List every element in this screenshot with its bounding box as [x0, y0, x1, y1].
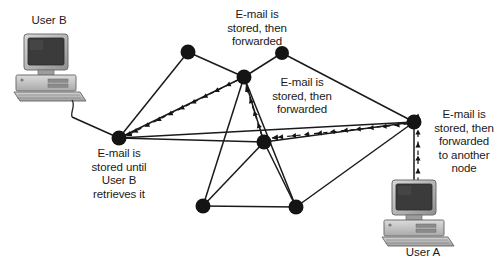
network-diagram: E-mail is stored, then forwarded E-mail … [0, 0, 501, 264]
label-right-note: E-mail is stored, then forwarded to anot… [429, 108, 499, 176]
flow-right-to-center-chevron [368, 125, 374, 131]
link-bottomleft-to-bottomright [203, 206, 296, 207]
network-node-top-left [181, 45, 196, 60]
flow-usera-to-right-chevron [415, 155, 420, 160]
link-left-to-topleft [119, 52, 188, 138]
computer-user-a [382, 180, 454, 246]
flow-usera-to-right-chevron [415, 142, 420, 147]
flow-usera-to-right-chevron [415, 168, 420, 173]
label-left-note: E-mail is stored until User B retrieves … [57, 147, 181, 201]
flow-uppermid-to-left-chevron [225, 82, 232, 89]
label-mid-note: E-mail is stored, then forwarded [248, 76, 356, 117]
network-node-center [257, 135, 272, 150]
network-node-bottom-right [289, 200, 304, 215]
link-userb-to-left [72, 117, 119, 138]
flow-right-to-center-chevron [355, 126, 361, 132]
flow-usera-to-right-chevron [415, 129, 420, 134]
label-top-note: E-mail is stored, then forwarded [197, 8, 317, 49]
link-center-to-bottomleft [203, 142, 264, 206]
computer-user-b [14, 34, 86, 117]
link-topleft-to-uppermid [188, 52, 244, 77]
link-center-to-bottomright [264, 142, 296, 207]
network-node-right [407, 115, 422, 130]
label-user-b: User B [16, 14, 82, 27]
network-node-bottom-left [196, 199, 211, 214]
label-user-a: User A [392, 246, 454, 259]
flow-right-to-center-chevron [342, 128, 348, 134]
network-node-left [112, 131, 127, 146]
link-left-to-center [119, 138, 264, 142]
